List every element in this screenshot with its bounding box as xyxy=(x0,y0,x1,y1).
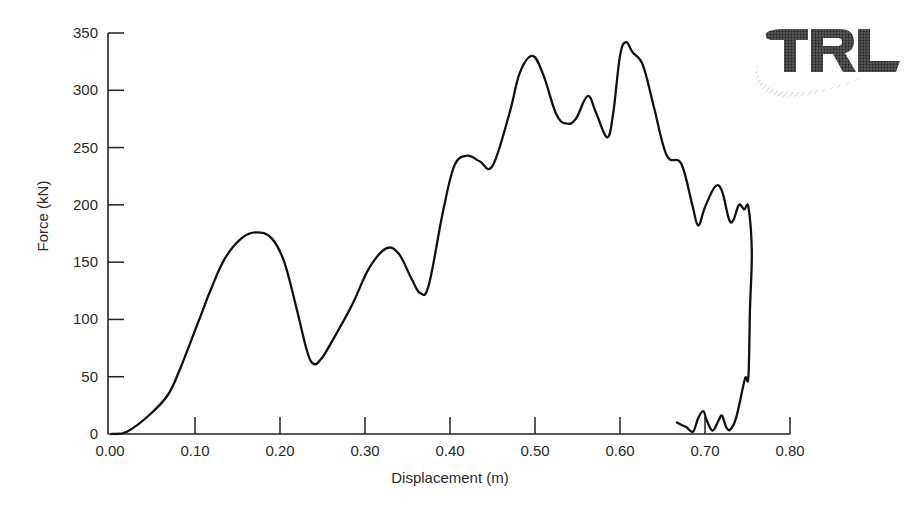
x-axis-ticks: 0.000.100.200.300.400.500.600.700.80 xyxy=(95,417,804,459)
y-tick-label: 50 xyxy=(81,368,98,385)
x-tick-label: 0.60 xyxy=(605,442,634,459)
y-tick-label: 350 xyxy=(73,24,98,41)
logo-letter-r xyxy=(811,29,856,72)
trl-logo: TRL xyxy=(748,18,908,98)
x-tick-label: 0.30 xyxy=(350,442,379,459)
y-tick-label: 100 xyxy=(73,310,98,327)
x-tick-label: 0.10 xyxy=(180,442,209,459)
logo-letter-l xyxy=(858,29,900,72)
y-tick-label: 200 xyxy=(73,196,98,213)
y-tick-label: 0 xyxy=(90,425,98,442)
x-tick-label: 0.20 xyxy=(265,442,294,459)
x-tick-label: 0.80 xyxy=(775,442,804,459)
y-axis-label: Force (kN) xyxy=(34,181,51,252)
axes xyxy=(108,33,790,434)
y-tick-label: 300 xyxy=(73,81,98,98)
logo-letter-t xyxy=(766,29,808,72)
x-tick-label: 0.40 xyxy=(435,442,464,459)
y-axis-ticks: 050100150200250300350 xyxy=(73,24,124,442)
y-tick-label: 250 xyxy=(73,139,98,156)
x-axis-label: Displacement (m) xyxy=(391,469,509,486)
x-tick-label: 0.70 xyxy=(690,442,719,459)
force-curve xyxy=(112,42,752,434)
x-tick-label: 0.50 xyxy=(520,442,549,459)
x-tick-label: 0.00 xyxy=(95,442,124,459)
y-tick-label: 150 xyxy=(73,253,98,270)
